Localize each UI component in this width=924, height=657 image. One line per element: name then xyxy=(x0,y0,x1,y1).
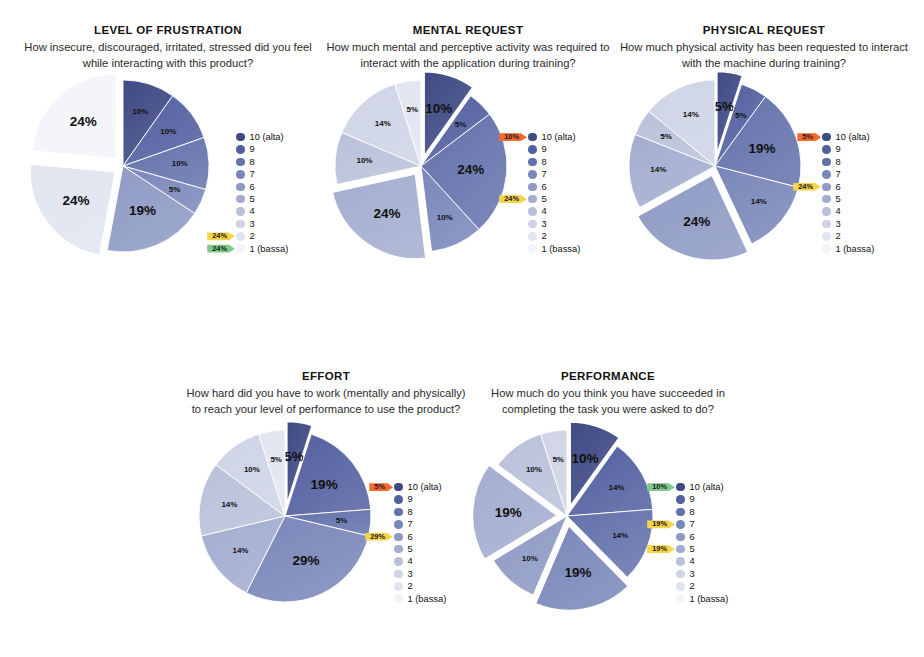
legend-swatch-icon xyxy=(236,145,245,154)
legend-item[interactable]: 4 xyxy=(236,205,288,217)
legend-item[interactable]: 10%10 (alta) xyxy=(676,481,728,493)
legend-item[interactable]: 19%7 xyxy=(676,518,728,530)
legend-item[interactable]: 8 xyxy=(822,156,874,168)
legend-item[interactable]: 3 xyxy=(394,568,446,580)
legend-item-label: 9 xyxy=(836,143,841,155)
slice-value-label: 14% xyxy=(375,119,391,128)
legend-item[interactable]: 4 xyxy=(394,555,446,567)
pie-slice[interactable]: 24% xyxy=(30,163,116,255)
pie-chart: 10%10%10%5%19%24%24% xyxy=(28,71,218,261)
legend-item[interactable]: 5 xyxy=(236,193,288,205)
legend-item-label: 8 xyxy=(836,156,841,168)
pie-slice[interactable]: 24% xyxy=(332,173,427,259)
legend-item-label: 9 xyxy=(690,493,695,505)
slice-value-label: 10% xyxy=(160,127,176,136)
legend-item[interactable]: 24%2 xyxy=(236,230,288,242)
legend-swatch-icon xyxy=(676,533,685,542)
chart-panel-performance: PERFORMANCEHow much do you think you hav… xyxy=(458,370,758,657)
legend-item[interactable]: 7 xyxy=(236,168,288,180)
legend-item[interactable]: 24%6 xyxy=(822,181,874,193)
legend-item[interactable]: 1 (bassa) xyxy=(394,593,446,605)
legend-item[interactable]: 24%1 (bassa) xyxy=(236,243,288,255)
legend-item[interactable]: 2 xyxy=(676,580,728,592)
chart-title: MENTAL REQUEST xyxy=(318,24,618,36)
legend-item[interactable]: 8 xyxy=(236,156,288,168)
legend-swatch-icon xyxy=(676,545,685,554)
legend-item[interactable]: 4 xyxy=(528,205,580,217)
slice-value-label: 14% xyxy=(612,531,628,540)
legend-item[interactable]: 10 (alta) xyxy=(236,131,288,143)
legend-item[interactable]: 7 xyxy=(394,518,446,530)
legend-item-label: 4 xyxy=(690,555,695,567)
legend-swatch-icon xyxy=(676,520,685,529)
legend-swatch-icon xyxy=(528,133,537,142)
legend-item[interactable]: 6 xyxy=(236,181,288,193)
legend-swatch-icon xyxy=(528,158,537,167)
legend-item[interactable]: 6 xyxy=(528,181,580,193)
legend-item[interactable]: 9 xyxy=(528,143,580,155)
legend-item[interactable]: 8 xyxy=(528,156,580,168)
legend-item[interactable]: 9 xyxy=(676,493,728,505)
slice-value-label: 5% xyxy=(336,516,348,525)
pie-chart: 10%14%14%19%10%19%10%5% xyxy=(472,421,662,611)
legend-item[interactable]: 19%5 xyxy=(676,543,728,555)
legend-item[interactable]: 5 xyxy=(822,193,874,205)
chart-title: PERFORMANCE xyxy=(458,370,758,382)
pie-slice[interactable]: 24% xyxy=(31,73,117,159)
legend-item-label: 5 xyxy=(690,543,695,555)
legend-item-label: 6 xyxy=(542,181,547,193)
legend-swatch-icon xyxy=(822,207,831,216)
slice-value-label: 19% xyxy=(495,505,522,520)
legend-item[interactable]: 29%6 xyxy=(394,531,446,543)
legend-item[interactable]: 9 xyxy=(394,493,446,505)
legend-item-label: 5 xyxy=(250,193,255,205)
slice-value-label: 5% xyxy=(284,449,304,464)
slice-value-label: 14% xyxy=(683,110,699,119)
chart-title: EFFORT xyxy=(176,370,476,382)
legend-item-label: 3 xyxy=(542,218,547,230)
legend-item-label: 6 xyxy=(408,531,413,543)
chart-legend: 10 (alta)987654324%224%1 (bassa) xyxy=(236,131,288,255)
legend-item[interactable]: 2 xyxy=(822,230,874,242)
legend-item-label: 2 xyxy=(542,230,547,242)
legend-item[interactable]: 5%10 (alta) xyxy=(394,481,446,493)
legend-item[interactable]: 1 (bassa) xyxy=(822,243,874,255)
legend-item[interactable]: 3 xyxy=(676,568,728,580)
legend-item[interactable]: 8 xyxy=(676,506,728,518)
slice-value-label: 5% xyxy=(660,132,672,141)
legend-item[interactable]: 2 xyxy=(394,580,446,592)
legend-item[interactable]: 6 xyxy=(676,531,728,543)
legend-item-label: 7 xyxy=(690,518,695,530)
legend-item[interactable]: 10%10 (alta) xyxy=(528,131,580,143)
legend-swatch-icon xyxy=(394,520,403,529)
slice-value-label: 5% xyxy=(407,105,419,114)
legend-swatch-icon xyxy=(822,170,831,179)
legend-item[interactable]: 9 xyxy=(236,143,288,155)
legend-item[interactable]: 5%10 (alta) xyxy=(822,131,874,143)
slice-value-label: 14% xyxy=(232,546,248,555)
legend-item[interactable]: 3 xyxy=(822,218,874,230)
legend-item-label: 4 xyxy=(836,205,841,217)
slice-value-label: 10% xyxy=(356,156,372,165)
legend-item[interactable]: 1 (bassa) xyxy=(676,593,728,605)
legend-item[interactable]: 24%5 xyxy=(528,193,580,205)
legend-item[interactable]: 1 (bassa) xyxy=(528,243,580,255)
slice-value-label: 24% xyxy=(457,162,484,177)
slice-value-label: 5% xyxy=(169,185,181,194)
legend-item[interactable]: 3 xyxy=(528,218,580,230)
legend-item[interactable]: 8 xyxy=(394,506,446,518)
legend-item[interactable]: 2 xyxy=(528,230,580,242)
legend-item[interactable]: 4 xyxy=(822,205,874,217)
legend-item[interactable]: 9 xyxy=(822,143,874,155)
legend-item-label: 6 xyxy=(690,531,695,543)
legend-item[interactable]: 3 xyxy=(236,218,288,230)
legend-item[interactable]: 7 xyxy=(528,168,580,180)
legend-item-label: 2 xyxy=(690,580,695,592)
legend-item-label: 3 xyxy=(836,218,841,230)
legend-item[interactable]: 4 xyxy=(676,555,728,567)
chart-body: 10%14%14%19%10%19%10%5%10%10 (alta)9819%… xyxy=(458,417,758,657)
legend-swatch-icon xyxy=(528,145,537,154)
legend-item[interactable]: 5 xyxy=(394,543,446,555)
legend-item[interactable]: 7 xyxy=(822,168,874,180)
legend-swatch-icon xyxy=(822,145,831,154)
